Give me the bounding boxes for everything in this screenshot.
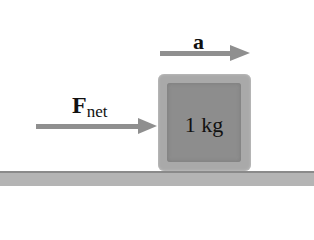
force-symbol: F <box>72 92 87 118</box>
acceleration-arrow-head-icon <box>230 45 250 61</box>
net-force-arrow-head-icon <box>138 118 157 134</box>
net-force-arrow-shaft <box>36 124 140 129</box>
mass-block-face: 1 kg <box>167 83 241 162</box>
floor-surface <box>0 171 314 186</box>
acceleration-arrow-shaft <box>160 51 232 56</box>
mass-label: 1 kg <box>167 112 241 138</box>
force-subscript: net <box>87 102 108 121</box>
mass-block: 1 kg <box>158 74 251 171</box>
net-force-label: Fnet <box>72 92 107 122</box>
